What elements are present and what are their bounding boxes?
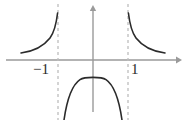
x-tick-label-negative-one: −1 <box>33 62 49 77</box>
y-axis <box>90 5 96 112</box>
curve-right-branch <box>128 13 165 53</box>
curve-left-branch <box>21 13 58 53</box>
x-tick-label-positive-one: 1 <box>131 62 139 77</box>
arrow-right-icon <box>176 57 182 64</box>
plot-canvas <box>0 0 183 120</box>
graph-figure: −1 1 <box>0 0 183 120</box>
arrow-up-icon <box>90 5 96 11</box>
